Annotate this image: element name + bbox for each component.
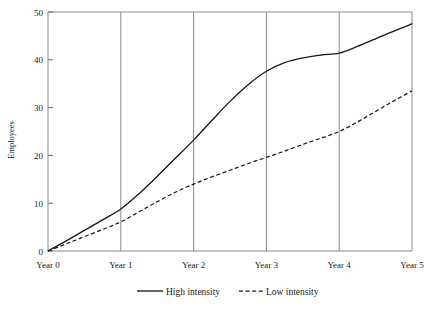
legend-label-low-intensity: Low intensity <box>266 287 319 297</box>
y-tick-label-0: 0 <box>39 247 44 257</box>
y-axis-ticks <box>48 12 53 251</box>
y-tick-label-40: 40 <box>34 55 44 65</box>
y-tick-label-30: 30 <box>34 103 44 113</box>
x-tick-label-year-2: Year 2 <box>182 260 205 270</box>
y-tick-label-10: 10 <box>34 199 44 209</box>
y-axis-tick-labels: 50 40 30 20 10 0 <box>34 8 44 257</box>
x-tick-label-year-4: Year 4 <box>328 260 352 270</box>
x-tick-label-year-0: Year 0 <box>36 260 60 270</box>
vertical-gridlines <box>121 12 339 251</box>
x-tick-label-year-3: Year 3 <box>255 260 279 270</box>
plot-frame <box>48 12 412 251</box>
y-tick-label-50: 50 <box>34 8 44 18</box>
y-axis-title-group: Employees <box>6 121 16 159</box>
y-tick-label-20: 20 <box>34 151 44 161</box>
line-chart: 50 40 30 20 10 0 Employees Year 0 Year 1… <box>0 0 438 311</box>
y-axis-title: Employees <box>6 121 16 159</box>
series-line-high-intensity <box>48 24 412 251</box>
x-tick-label-year-1: Year 1 <box>109 260 132 270</box>
data-series <box>48 24 412 251</box>
x-tick-label-year-5: Year 5 <box>400 260 424 270</box>
chart-figure: 50 40 30 20 10 0 Employees Year 0 Year 1… <box>0 0 438 311</box>
series-line-low-intensity <box>48 91 412 251</box>
chart-legend: High intensity Low intensity <box>137 287 319 297</box>
legend-label-high-intensity: High intensity <box>166 287 220 297</box>
x-axis-tick-labels: Year 0 Year 1 Year 2 Year 3 Year 4 Year … <box>36 260 424 270</box>
